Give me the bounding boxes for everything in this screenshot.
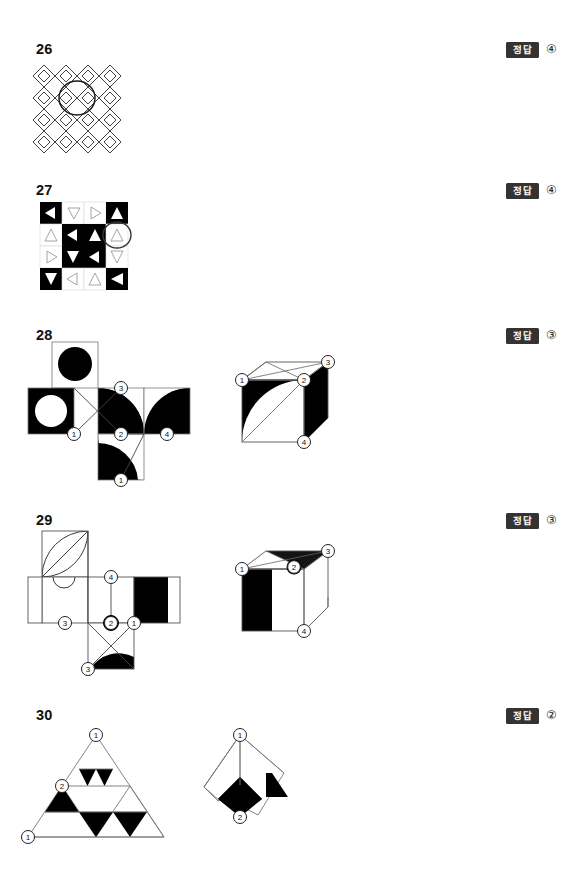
grid-cell xyxy=(40,246,62,268)
grid-cell xyxy=(40,202,62,224)
svg-text:1: 1 xyxy=(72,430,77,439)
svg-text:1: 1 xyxy=(94,731,99,740)
white-separator xyxy=(262,771,266,801)
grid-cell xyxy=(40,224,62,246)
vertex-marker: 2 xyxy=(298,374,311,387)
answer-value-28: ③ xyxy=(546,330,557,342)
vertex-marker: 2 xyxy=(104,616,119,631)
question-number-29: 29 xyxy=(36,513,53,528)
diamond-lattice-svg xyxy=(30,62,150,162)
diamond-cell xyxy=(99,131,121,153)
diamond-cell xyxy=(33,87,55,109)
question-block-27: 27 정답 ④ xyxy=(0,170,573,320)
svg-text:1: 1 xyxy=(238,731,243,740)
question-block-29: 29 정답 ③ xyxy=(0,505,573,695)
answer-value-27: ④ xyxy=(546,185,557,197)
grid-cell xyxy=(62,202,84,224)
vertex-marker: 1 xyxy=(115,474,128,487)
answer-row-27: 정답 ④ xyxy=(506,183,557,199)
grid-cell xyxy=(106,224,128,246)
vertex-marker: 4 xyxy=(298,625,311,638)
answer-badge-29: 정답 xyxy=(506,513,539,529)
svg-text:3: 3 xyxy=(326,358,331,367)
vertex-marker: 2 xyxy=(234,811,247,824)
svg-text:4: 4 xyxy=(165,430,170,439)
question-number-27: 27 xyxy=(36,183,53,198)
vertex-marker: 1 xyxy=(22,831,35,844)
grid-cell xyxy=(40,268,62,290)
grid-cell xyxy=(106,246,128,268)
vertex-marker: 3 xyxy=(59,617,72,630)
diamond-cell xyxy=(99,65,121,87)
grid-cell xyxy=(84,202,106,224)
svg-text:2: 2 xyxy=(302,376,307,385)
svg-text:1: 1 xyxy=(240,376,245,385)
diamond-cell xyxy=(33,131,55,153)
triangle-grid-cells xyxy=(40,202,128,290)
vertex-marker: 1 xyxy=(234,729,247,742)
figure-30-triangle-net: 1 2 1 xyxy=(34,727,194,852)
cube-front-face-29 xyxy=(242,569,304,631)
vertex-marker: 1 xyxy=(128,617,141,630)
answer-row-30: 정답 ② xyxy=(506,708,557,724)
vertex-marker: 4 xyxy=(105,571,118,584)
cube-net-28-svg: 3 1 2 4 1 xyxy=(28,342,218,487)
svg-text:2: 2 xyxy=(292,563,297,572)
triangle-grid-svg xyxy=(40,202,160,312)
svg-text:2: 2 xyxy=(119,430,124,439)
question-block-28: 28 정답 ③ xyxy=(0,320,573,505)
diamond-cell xyxy=(33,65,55,87)
svg-text:3: 3 xyxy=(63,619,68,628)
answer-value-29: ③ xyxy=(546,515,557,527)
svg-text:2: 2 xyxy=(109,619,114,628)
diamond-cell xyxy=(55,131,77,153)
svg-text:1: 1 xyxy=(240,565,245,574)
svg-text:3: 3 xyxy=(86,665,91,674)
vertex-marker: 2 xyxy=(56,780,69,793)
vertex-marker: 4 xyxy=(298,436,311,449)
vertex-marker: 2 xyxy=(115,428,128,441)
diamond-cell xyxy=(99,109,121,131)
vertex-marker: 3 xyxy=(322,356,335,369)
figure-26-diamond-lattice xyxy=(30,62,150,162)
grid-cell xyxy=(106,202,128,224)
svg-text:2: 2 xyxy=(238,813,243,822)
svg-text:2: 2 xyxy=(60,782,65,791)
folded-tetra-svg: 1 2 xyxy=(196,725,311,850)
vertex-marker: 1 xyxy=(236,374,249,387)
grid-cell xyxy=(84,246,106,268)
figure-27-triangle-grid xyxy=(40,202,160,312)
vertex-marker: 3 xyxy=(82,663,95,676)
vertex-marker: 1 xyxy=(236,563,249,576)
question-block-30: 30 정답 ② xyxy=(0,695,573,870)
net-face-lens xyxy=(42,531,88,577)
question-block-26: 26 정답 ④ xyxy=(0,0,573,170)
net-face-blacksquare xyxy=(134,577,180,623)
vertex-marker: 1 xyxy=(68,428,81,441)
figure-28-cube-net: 3 1 2 4 1 xyxy=(28,342,218,487)
diamond-cell xyxy=(33,109,55,131)
grid-cell xyxy=(106,268,128,290)
vertex-marker: 2 xyxy=(287,560,302,575)
answer-row-28: 정답 ③ xyxy=(506,328,557,344)
figure-28-cube: 1 2 3 4 xyxy=(228,348,348,468)
diamond-cell xyxy=(99,87,121,109)
svg-text:3: 3 xyxy=(119,384,124,393)
question-number-30: 30 xyxy=(36,708,53,723)
svg-text:1: 1 xyxy=(132,619,137,628)
vertex-marker: 3 xyxy=(322,545,335,558)
cube-29-svg: 1 2 3 4 xyxy=(228,537,353,657)
diamond-cells xyxy=(33,65,121,153)
net-face-left xyxy=(28,388,74,434)
question-number-28: 28 xyxy=(36,328,53,343)
grid-cell xyxy=(62,268,84,290)
figure-30-folded: 1 2 xyxy=(196,725,311,850)
diamond-cell xyxy=(77,131,99,153)
answer-badge-26: 정답 xyxy=(506,42,539,58)
grid-cell xyxy=(62,246,84,268)
svg-text:1: 1 xyxy=(119,476,124,485)
vertex-marker: 4 xyxy=(161,428,174,441)
figure-29-cube: 1 2 3 4 xyxy=(228,537,353,657)
svg-text:1: 1 xyxy=(26,833,31,842)
grid-cell xyxy=(84,268,106,290)
